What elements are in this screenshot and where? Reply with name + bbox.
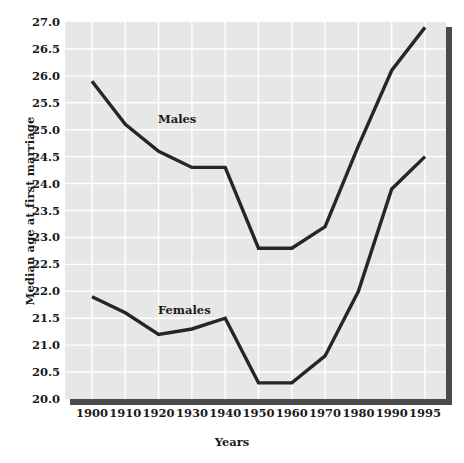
y-axis-tick-label: 22.5 bbox=[14, 258, 60, 270]
plot-shadow-right bbox=[446, 27, 452, 404]
y-axis-tick-label: 21.0 bbox=[14, 339, 60, 351]
x-axis-title: Years bbox=[0, 435, 464, 449]
plot-shadow-bottom bbox=[70, 399, 452, 405]
series-label-males: Males bbox=[158, 112, 196, 126]
y-axis-tick-label: 26.5 bbox=[14, 43, 60, 55]
y-axis-tick-label: 25.5 bbox=[14, 97, 60, 109]
y-axis-tick-label: 23.0 bbox=[14, 231, 60, 243]
y-axis-tick-label: 20.0 bbox=[14, 393, 60, 405]
x-axis-tick-label: 1995 bbox=[395, 406, 455, 420]
plot-lines bbox=[65, 22, 446, 399]
series-label-females: Females bbox=[158, 303, 211, 317]
y-axis-tick-label: 25.0 bbox=[14, 124, 60, 136]
y-axis-tick-label: 20.5 bbox=[14, 366, 60, 378]
y-axis-tick-label: 26.0 bbox=[14, 70, 60, 82]
y-axis-tick-label: 23.5 bbox=[14, 205, 60, 217]
y-axis-tick-labels: 20.020.521.021.522.022.523.023.524.024.5… bbox=[10, 0, 60, 463]
y-axis-tick-label: 24.5 bbox=[14, 151, 60, 163]
y-axis-tick-label: 24.0 bbox=[14, 178, 60, 190]
line-chart: Median age at first marriage 20.020.521.… bbox=[0, 0, 464, 463]
y-axis-tick-label: 22.0 bbox=[14, 285, 60, 297]
y-axis-tick-label: 27.0 bbox=[14, 16, 60, 28]
y-axis-tick-label: 21.5 bbox=[14, 312, 60, 324]
